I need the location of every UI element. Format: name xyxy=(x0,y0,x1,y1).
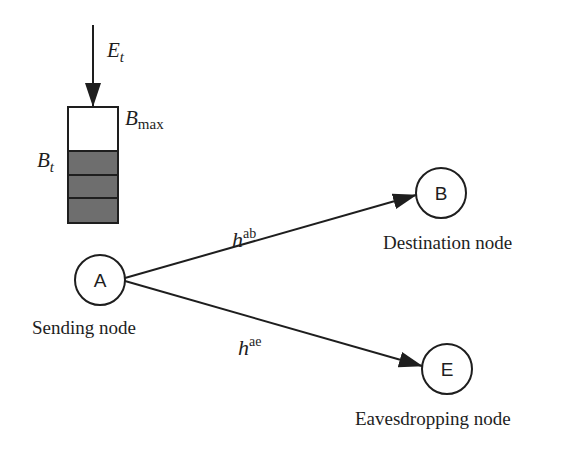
node-eavesdropper-letter: E xyxy=(441,359,454,380)
node-eavesdropper-caption: Eavesdropping node xyxy=(355,408,511,429)
link-a-to-b xyxy=(125,195,416,278)
node-destination-caption: Destination node xyxy=(383,232,512,253)
battery-cell xyxy=(68,175,118,198)
battery-cell xyxy=(68,151,118,175)
node-destination: B xyxy=(416,168,466,218)
link-a-to-e xyxy=(125,281,422,366)
diagram-canvas: Et Bmax Bt hab hae A Sending node B Dest… xyxy=(0,0,576,450)
node-destination-letter: B xyxy=(435,183,448,204)
link-ab-label: hab xyxy=(232,226,256,252)
energy-arrival-label: Et xyxy=(106,38,125,65)
node-eavesdropper: E xyxy=(422,344,472,394)
battery-max-label: Bmax xyxy=(125,106,164,132)
node-sender: A xyxy=(75,255,125,305)
node-sender-caption: Sending node xyxy=(32,317,136,338)
battery-cell xyxy=(68,198,118,223)
battery-level-label: Bt xyxy=(37,148,55,175)
link-ae-label: hae xyxy=(238,334,261,360)
battery xyxy=(68,107,118,223)
node-sender-letter: A xyxy=(94,270,107,291)
